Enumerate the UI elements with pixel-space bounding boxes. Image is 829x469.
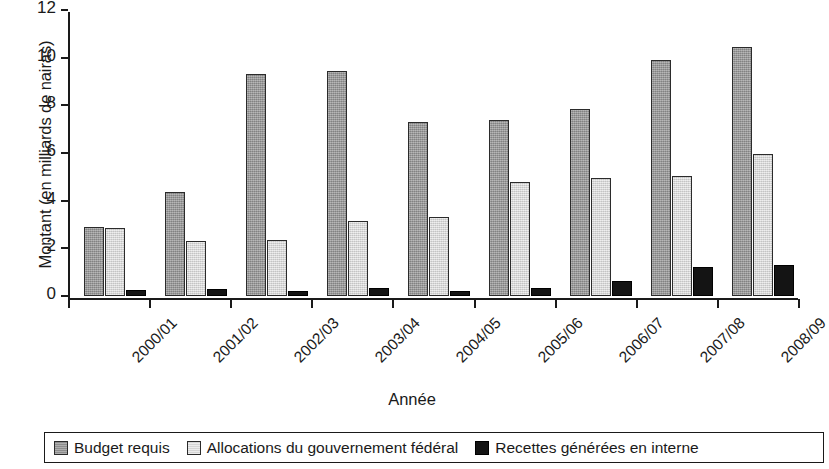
- bar: [165, 192, 185, 296]
- bar: [753, 154, 773, 296]
- bar: [267, 240, 287, 296]
- x-tick-label: 2005/06: [534, 314, 586, 366]
- bar: [246, 74, 266, 296]
- x-tick: [230, 299, 232, 308]
- x-tick-label: 2006/07: [615, 314, 667, 366]
- x-axis-title: Année: [0, 390, 824, 409]
- bar: [591, 178, 611, 296]
- y-tick: 4: [61, 200, 68, 202]
- y-tick-label: 10: [37, 46, 56, 66]
- y-tick: 0: [61, 295, 68, 297]
- bar: [732, 47, 752, 296]
- legend-swatch-icon: [187, 441, 201, 455]
- bar: [369, 288, 389, 296]
- bar: [531, 288, 551, 296]
- bar-group: [327, 10, 389, 296]
- x-tick: [149, 299, 151, 308]
- legend-entry: Budget requis: [54, 439, 170, 457]
- x-tick: [798, 299, 800, 308]
- x-tick-label: 2008/09: [777, 314, 829, 366]
- bar: [570, 109, 590, 296]
- x-tick-label: 2004/05: [453, 314, 505, 366]
- legend-label: Allocations du gouvernement fédéral: [207, 439, 459, 457]
- bar: [288, 291, 308, 296]
- bar: [126, 290, 146, 296]
- x-tick: [636, 299, 638, 308]
- bar: [408, 122, 428, 296]
- bar: [450, 291, 470, 296]
- y-tick: 6: [61, 152, 68, 154]
- x-axis-line: [68, 298, 798, 300]
- y-tick: 10: [61, 57, 68, 59]
- bar-group: [732, 10, 794, 296]
- y-tick-label: 0: [47, 284, 56, 304]
- bar: [186, 241, 206, 296]
- y-tick: 12: [61, 9, 68, 11]
- bar-group: [570, 10, 632, 296]
- x-tick-label: 2000/01: [128, 314, 180, 366]
- x-tick: [555, 299, 557, 308]
- bar: [693, 267, 713, 296]
- bar-group: [165, 10, 227, 296]
- legend-entry: Allocations du gouvernement fédéral: [187, 439, 459, 457]
- y-tick-label: 8: [47, 93, 56, 113]
- bar: [489, 120, 509, 296]
- legend-label: Budget requis: [74, 439, 170, 457]
- bar: [429, 217, 449, 296]
- bar-group: [84, 10, 146, 296]
- bar: [348, 221, 368, 296]
- bar-group: [651, 10, 713, 296]
- chart-legend: Budget requisAllocations du gouvernement…: [44, 432, 824, 463]
- y-tick: 8: [61, 104, 68, 106]
- bar-group: [489, 10, 551, 296]
- x-tick: [311, 299, 313, 308]
- x-tick: [474, 299, 476, 308]
- bar: [672, 176, 692, 296]
- bar-group: [408, 10, 470, 296]
- legend-swatch-icon: [54, 441, 68, 455]
- bar: [510, 182, 530, 296]
- y-tick-label: 2: [47, 236, 56, 256]
- x-tick-label: 2007/08: [696, 314, 748, 366]
- y-tick-label: 4: [47, 189, 56, 209]
- x-tick: [68, 299, 70, 308]
- x-tick-label: 2003/04: [372, 314, 424, 366]
- bar: [774, 265, 794, 296]
- legend-swatch-icon: [475, 441, 489, 455]
- plot-area: 024681012 2000/012001/022002/032003/0420…: [68, 12, 798, 298]
- legend-label: Recettes générées en interne: [495, 439, 698, 457]
- x-tick-label: 2002/03: [291, 314, 343, 366]
- bar: [84, 227, 104, 296]
- x-tick-label: 2001/02: [210, 314, 262, 366]
- y-tick: 2: [61, 247, 68, 249]
- bar: [207, 289, 227, 296]
- x-tick: [392, 299, 394, 308]
- legend-entry: Recettes générées en interne: [475, 439, 698, 457]
- bar: [612, 281, 632, 296]
- bar-group: [246, 10, 308, 296]
- bar: [105, 228, 125, 296]
- bar: [327, 71, 347, 296]
- y-tick-label: 12: [37, 0, 56, 18]
- y-tick-label: 6: [47, 141, 56, 161]
- y-axis-line: [68, 12, 70, 299]
- bar: [651, 60, 671, 296]
- x-tick: [717, 299, 719, 308]
